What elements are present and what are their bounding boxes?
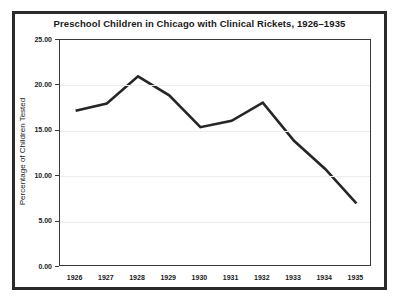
gridline [60,131,370,132]
gridline [60,222,370,223]
gridline [60,85,370,86]
series-path-rickets [76,76,357,203]
gridline [60,176,370,177]
chart-title: Preschool Children in Chicago with Clini… [12,18,387,29]
figure-container: Preschool Children in Chicago with Clini… [0,0,399,307]
line-series [60,40,372,267]
y-axis-label: Percentage of Children Tested [18,67,27,237]
plot-area [59,39,371,266]
